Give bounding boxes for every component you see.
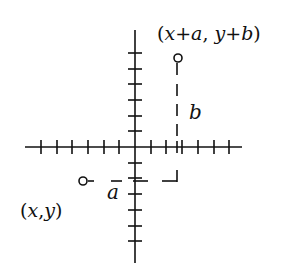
displacement-path (88, 63, 177, 182)
end-point-label: (x+a, y+b) (157, 22, 261, 44)
start-point-label: (x,y) (20, 199, 62, 221)
end-point-marker (174, 54, 182, 62)
horizontal-displacement-label: a (107, 180, 119, 204)
start-point-marker (79, 177, 87, 185)
vertical-displacement-label: b (189, 100, 202, 124)
translation-diagram: (x+a, y+b) (x,y) b a (0, 0, 302, 278)
